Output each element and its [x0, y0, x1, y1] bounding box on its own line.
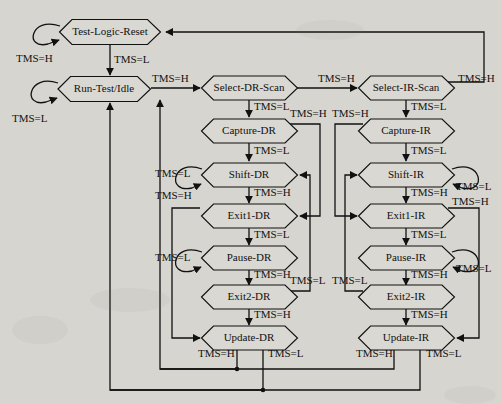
node-run-test-idle[interactable]: Run-Test/Idle — [58, 77, 151, 102]
node-exit2-ir[interactable]: Exit2-IR — [359, 285, 455, 309]
edge-label-shiftdr-self: TMS=L — [155, 167, 191, 179]
node-label-select-dr-scan: Select-DR-Scan — [214, 81, 285, 93]
edge-label-capdr-to-shiftdr: TMS=L — [254, 144, 290, 156]
node-shift-ir[interactable]: Shift-IR — [359, 163, 455, 187]
node-capture-dr[interactable]: Capture-DR — [202, 119, 298, 143]
edge-label-pauseir-to-ex2ir: TMS=H — [411, 268, 448, 280]
edge-label-selir-to-tlr: TMS=H — [458, 72, 495, 84]
node-label-exit2-dr: Exit2-DR — [228, 290, 271, 302]
edge-label-capir-to-shiftir: TMS=L — [411, 144, 447, 156]
edge-label-capdr-to-ex1dr: TMS=H — [290, 107, 327, 119]
node-label-exit1-dr: Exit1-DR — [228, 209, 271, 221]
edge-label-ex1ir-to-updateir: TMS=H — [452, 195, 489, 207]
node-label-capture-ir: Capture-IR — [381, 124, 431, 136]
edge-label-capir-to-ex1ir: TMS=H — [332, 107, 369, 119]
node-label-exit1-ir: Exit1-IR — [387, 209, 426, 221]
node-label-run-test-idle: Run-Test/Idle — [74, 82, 134, 94]
edge-label-ex2dr-to-shiftdr: TMS=L — [290, 274, 326, 286]
node-pause-dr[interactable]: Pause-DR — [202, 246, 298, 270]
edge-label-seldr-to-selir: TMS=H — [318, 72, 355, 84]
edge-label-ex2ir-to-shiftir: TMS=L — [332, 274, 368, 286]
state-machine-canvas: Test-Logic-Reset Run-Test/Idle Select-DR… — [0, 0, 502, 404]
edge-label-ex2dr-to-updatedr: TMS=H — [254, 308, 291, 320]
node-test-logic-reset[interactable]: Test-Logic-Reset — [60, 20, 161, 45]
edge-label-tlr-self: TMS=H — [16, 52, 53, 64]
node-label-capture-dr: Capture-DR — [222, 124, 276, 136]
jtag-state-diagram: Test-Logic-Reset Run-Test/Idle Select-DR… — [0, 0, 502, 404]
node-label-test-logic-reset: Test-Logic-Reset — [72, 25, 148, 37]
edge-label-rti-self: TMS=L — [12, 112, 48, 124]
edge-label-ex1dr-to-pausedr: TMS=L — [254, 228, 290, 240]
node-label-pause-ir: Pause-IR — [386, 251, 427, 263]
edge-label-shiftir-to-ex1ir: TMS=H — [411, 186, 448, 198]
node-pause-ir[interactable]: Pause-IR — [359, 246, 455, 270]
edge-label-pauseir-self: TMS=L — [456, 262, 492, 274]
edge-label-ex1ir-to-pauseir: TMS=L — [411, 228, 447, 240]
edge-label-updateir-h: TMS=H — [356, 347, 393, 359]
node-shift-dr[interactable]: Shift-DR — [202, 163, 298, 187]
node-label-update-ir: Update-IR — [383, 331, 430, 343]
node-label-select-ir-scan: Select-IR-Scan — [373, 81, 440, 93]
edge-label-shiftdr-to-ex1dr: TMS=H — [254, 186, 291, 198]
edge-label-pausedr-self: TMS=L — [155, 251, 191, 263]
edge-label-ex2ir-to-updateir: TMS=H — [411, 308, 448, 320]
edge-label-pausedr-to-ex2dr: TMS=H — [254, 268, 291, 280]
edge-label-ex1dr-to-updatedr: TMS=H — [155, 189, 192, 201]
node-capture-ir[interactable]: Capture-IR — [359, 119, 455, 143]
node-label-pause-dr: Pause-DR — [227, 251, 272, 263]
edge-label-shiftir-self: TMS=L — [456, 180, 492, 192]
edge-label-updatedr-h: TMS=H — [198, 347, 235, 359]
edge-label-tlr-to-rti: TMS=L — [114, 53, 150, 65]
node-exit2-dr[interactable]: Exit2-DR — [202, 285, 298, 309]
edge-label-selir-to-capir: TMS=L — [411, 100, 447, 112]
node-select-ir-scan[interactable]: Select-IR-Scan — [359, 76, 455, 100]
node-label-shift-ir: Shift-IR — [388, 168, 425, 180]
edge-label-rti-to-seldr: TMS=H — [152, 72, 189, 84]
node-exit1-ir[interactable]: Exit1-IR — [359, 204, 455, 228]
edge-label-seldr-to-capdr: TMS=L — [254, 100, 290, 112]
node-label-update-dr: Update-DR — [224, 331, 275, 343]
edge-label-updateir-l: TMS=L — [426, 347, 462, 359]
node-select-dr-scan[interactable]: Select-DR-Scan — [202, 76, 298, 100]
node-label-shift-dr: Shift-DR — [229, 168, 270, 180]
node-exit1-dr[interactable]: Exit1-DR — [202, 204, 298, 228]
node-label-exit2-ir: Exit2-IR — [387, 290, 426, 302]
edge-label-updatedr-l: TMS=L — [268, 347, 304, 359]
